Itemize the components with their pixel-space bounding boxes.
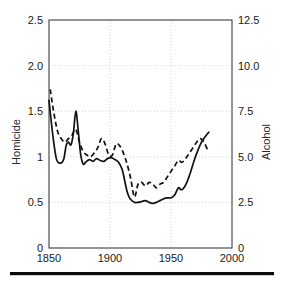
y-axis-left-title: Homicide bbox=[10, 119, 22, 165]
y-left-tick-label: 1 bbox=[37, 151, 43, 163]
x-tick-label: 1900 bbox=[98, 252, 122, 264]
y-right-tick-label: 2.5 bbox=[238, 196, 253, 208]
y-right-tick-label: 0 bbox=[238, 242, 244, 254]
dual-axis-line-chart: 1850190019502000 00.511.52.02.5 02.55.07… bbox=[0, 0, 284, 284]
y-axis-right-title: Alcohol bbox=[260, 124, 272, 160]
y-left-tick-label: 1.5 bbox=[28, 105, 43, 117]
x-tick-label: 1950 bbox=[159, 252, 183, 264]
y-right-tick-label: 7.5 bbox=[238, 105, 253, 117]
chart-figure: 1850190019502000 00.511.52.02.5 02.55.07… bbox=[0, 0, 284, 284]
y-right-tick-label: 12.5 bbox=[238, 14, 259, 26]
y-left-tick-label: 2.0 bbox=[28, 60, 43, 72]
bottom-rule bbox=[10, 272, 274, 275]
y-left-tick-label: 0 bbox=[37, 242, 43, 254]
y-left-tick-label: 2.5 bbox=[28, 14, 43, 26]
y-right-tick-label: 5.0 bbox=[238, 151, 253, 163]
y-right-tick-label: 10.0 bbox=[238, 60, 259, 72]
y-left-tick-label: 0.5 bbox=[28, 196, 43, 208]
